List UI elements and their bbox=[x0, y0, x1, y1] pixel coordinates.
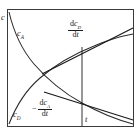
curve-label-c-a: cA bbox=[17, 29, 24, 40]
fraction-dcd-dt: dcD dt bbox=[68, 20, 83, 39]
curve-label-c-d: cD bbox=[13, 110, 21, 121]
time-t: t bbox=[76, 30, 78, 39]
curve-label-c-d-subscript: D bbox=[17, 115, 21, 121]
fraction-denominator: dt bbox=[68, 31, 83, 39]
rate-label-dcd-dt: dcD dt bbox=[68, 20, 83, 39]
minus-sign: − bbox=[32, 105, 38, 113]
concentration-time-figure: c cA cD dcD dt − dcA dt t bbox=[0, 0, 139, 138]
curve-label-c-a-subscript: A bbox=[21, 34, 24, 40]
rate-label-minus-dca-dt: − dcA dt bbox=[32, 99, 52, 118]
y-axis-label-c: c bbox=[1, 13, 5, 22]
fraction-dca-dt: dcA dt bbox=[38, 99, 53, 118]
time-marker-label: t bbox=[85, 115, 87, 124]
fraction-denominator: dt bbox=[38, 110, 53, 118]
time-t: t bbox=[46, 109, 48, 118]
